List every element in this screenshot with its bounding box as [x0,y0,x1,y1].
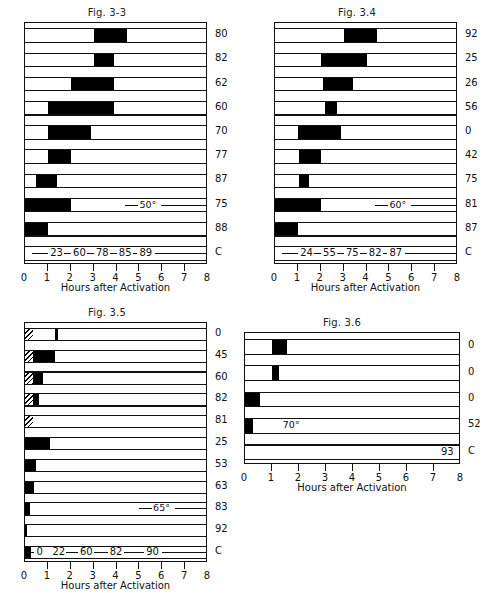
row-value-label: 62 [215,78,228,88]
c-row-connector [133,253,138,254]
bar-rows: 93 [245,333,459,463]
c-row-connector [383,253,388,254]
row-value-label: 26 [465,78,478,88]
row-value-label: 70 [215,126,228,136]
bar-rule [245,392,459,393]
bar-row [25,524,206,536]
x-axis-tick [320,264,321,271]
plot-area: 022608290 65° [24,322,207,562]
row-value-label: 56 [465,102,478,112]
bar-rule [25,163,206,164]
c-row-value: 24 [300,248,313,258]
bar-row [25,481,206,493]
bar-rule [25,174,206,175]
x-axis-tick [47,562,48,569]
bar-rule [245,380,459,381]
bar-rule [25,28,206,29]
bar-rule [245,444,459,445]
bar-rule [25,187,206,188]
x-axis-tick [352,464,353,471]
figure-title: Fig. 3.6 [224,316,460,330]
c-row-connector [64,253,71,254]
bar-segment-filled [71,77,114,91]
row-value-label: 0 [468,367,474,377]
bar-rule [275,163,456,164]
bar-rule [275,42,456,43]
x-axis: 012345678 [244,464,460,478]
bar-rule [25,260,206,261]
bar-segment-hatched [25,371,33,383]
c-row-value: 87 [389,248,402,258]
x-axis-tick [93,264,94,271]
bar-segment-filled [25,502,30,514]
bar-segment-filled [321,53,367,67]
x-axis-tick [271,464,272,471]
c-row-connector [155,253,206,254]
bar-row [25,350,206,362]
bar-rows: 2360788589 [25,23,206,263]
bar-row [25,77,206,91]
bar-row [275,149,456,163]
bar-rule [245,365,459,366]
plot-area: 93 70° [244,332,460,464]
x-axis-tick [161,562,162,569]
bar-rule [25,90,206,91]
x-axis-tick [411,264,412,271]
bar-segment-filled [298,125,341,139]
bar-rule [275,222,456,223]
bar-rule [25,449,206,450]
bar-rule [245,418,459,419]
bar-rule [245,433,459,434]
bar-rule [25,77,206,78]
bar-row [245,418,459,433]
bar-rule [25,536,206,537]
bar-row [275,53,456,67]
temperature-annotation: 70° [283,420,300,430]
x-axis-title: Hours after Activation [274,282,457,293]
bar-row [25,28,206,42]
temperature-annotation: 65° [153,503,170,513]
bar-rule [25,362,206,363]
row-value-labels: 808262607077877588C [210,22,244,264]
plot-area: 2360788589 50° [24,22,207,264]
bar-segment-filled [299,174,309,188]
bar-rule [25,42,206,43]
bar-rule [275,174,456,175]
x-axis-tick [433,464,434,471]
bar-row [275,101,456,115]
row-value-label: 81 [465,199,478,209]
bar-segment-filled [275,198,321,212]
row-value-label: C [468,446,475,456]
x-axis-tick [379,464,380,471]
bar-rule [25,340,206,341]
c-row-value: 22 [52,547,65,557]
bar-rule [25,371,206,372]
c-row-connector [94,552,108,553]
c-row-connector [66,552,77,553]
bar-segment-filled [33,371,43,383]
x-axis: 012345678 [274,264,457,278]
bar-rule [25,101,206,102]
bar-row [25,328,206,340]
bar-segment-filled [94,53,115,67]
bar-rule [25,427,206,428]
c-row-connector [87,253,94,254]
bar-segment-hatched [25,350,33,362]
figure-title: Fig. 3.4 [254,6,460,20]
row-value-label: 75 [215,199,228,209]
figure-title: Fig. 3.5 [4,306,210,320]
x-axis-tick [184,562,185,569]
bar-rule [25,437,206,438]
bar-segment-filled [25,437,50,449]
x-axis-tick [93,562,94,569]
bar-rule [25,139,206,140]
bar-rule [275,198,456,199]
c-row-connector [314,253,321,254]
bar-rows: 2455758287 [275,23,456,263]
bar-rule [25,481,206,482]
c-row-value: 89 [139,248,152,258]
bar-row [275,77,456,91]
bar-rule [275,114,456,115]
bar-segment-filled [325,101,336,115]
bar-rule [275,149,456,150]
